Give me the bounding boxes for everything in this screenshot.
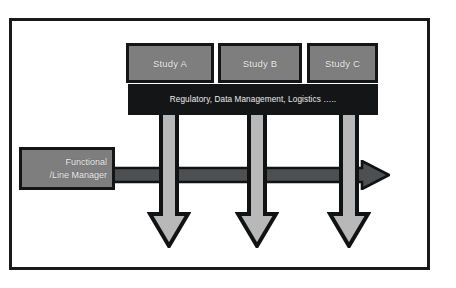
study-box-a-label: Study A	[153, 58, 187, 69]
vertical-arrow-shape	[150, 108, 188, 246]
study-box-c-label: Study C	[325, 58, 360, 69]
study-box-b-label: Study B	[243, 58, 277, 69]
functional-line-manager-box: Functional /Line Manager	[19, 147, 115, 190]
services-banner: Regulatory, Data Management, Logistics ……	[128, 84, 378, 115]
vertical-arrow-shape	[330, 108, 368, 246]
manager-label-line-2: /Line Manager	[49, 169, 107, 182]
services-banner-label: Regulatory, Data Management, Logistics ……	[170, 95, 337, 104]
diagram-canvas: Regulatory, Data Management, Logistics ……	[0, 0, 456, 288]
study-box-a: Study A	[126, 43, 214, 83]
vertical-arrow-shape	[238, 108, 276, 246]
study-a-arrow	[147, 108, 191, 248]
study-b-arrow	[235, 108, 279, 248]
manager-label-line-1: Functional	[65, 156, 107, 169]
study-box-b: Study B	[218, 43, 302, 83]
study-box-c: Study C	[307, 43, 378, 83]
study-c-arrow	[327, 108, 371, 248]
